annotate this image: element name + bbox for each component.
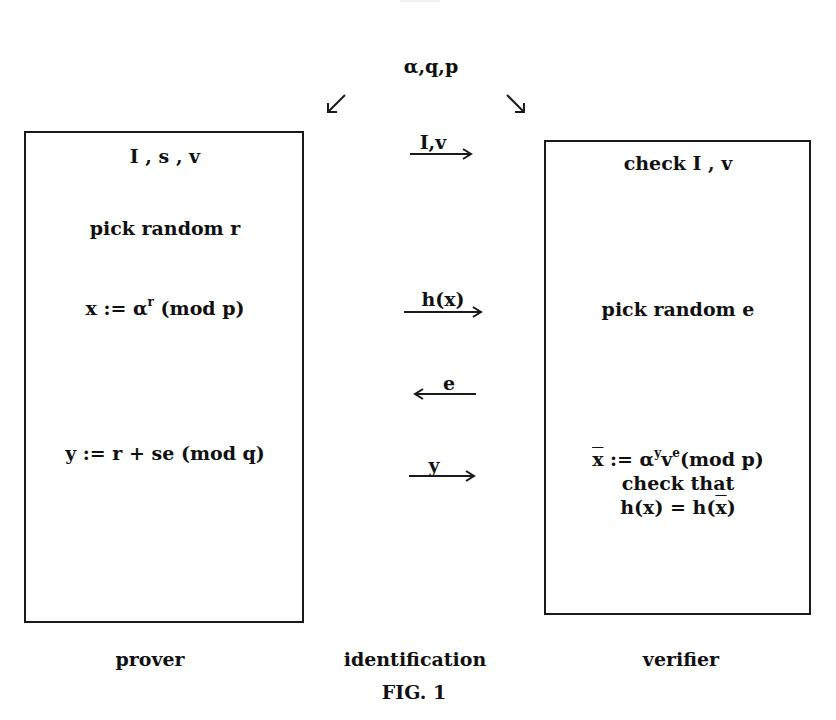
cropped-page-fragment bbox=[400, 0, 440, 2]
commitment-modulus: (mod p) bbox=[154, 297, 245, 319]
right-arrow-icon bbox=[404, 306, 484, 318]
arrow-to-verifier-icon bbox=[503, 93, 527, 115]
prover-box: I , s , v pick random r x := αr (mod p) … bbox=[24, 131, 304, 623]
prover-pick-random-r: pick random r bbox=[90, 219, 241, 238]
verifier-pick-random-e: pick random e bbox=[602, 300, 755, 319]
v-term: v bbox=[661, 448, 672, 470]
prover-label: prover bbox=[115, 650, 184, 669]
left-arrow-icon bbox=[412, 388, 478, 400]
hash-left: h(x) = h( bbox=[620, 496, 715, 518]
hash-close: ) bbox=[727, 496, 736, 518]
prover-secrets: I , s , v bbox=[130, 147, 200, 166]
x-bar: x bbox=[592, 448, 603, 470]
figure-caption: FIG. 1 bbox=[382, 683, 446, 702]
right-arrow-icon bbox=[409, 470, 477, 482]
identification-label: identification bbox=[344, 650, 487, 669]
public-parameters: α,q,p bbox=[404, 57, 458, 76]
verifier-box: check I , v pick random e x := αyve(mod … bbox=[544, 140, 811, 615]
recompute-base: := α bbox=[603, 448, 654, 470]
verifier-label: verifier bbox=[643, 650, 719, 669]
x-bar: x bbox=[715, 496, 726, 518]
verifier-hash-comparison: h(x) = h(x) bbox=[620, 498, 735, 517]
commitment-base: x := α bbox=[85, 297, 147, 319]
arrow-to-prover-icon bbox=[325, 93, 349, 115]
exponent-e: e bbox=[672, 446, 680, 460]
verifier-check-identity: check I , v bbox=[624, 154, 733, 173]
recompute-modulus: (mod p) bbox=[680, 448, 764, 470]
verifier-recompute: x := αyve(mod p) bbox=[592, 450, 764, 469]
right-arrow-icon bbox=[410, 148, 474, 160]
prover-commitment: x := αr (mod p) bbox=[85, 299, 244, 318]
verifier-check-that: check that bbox=[622, 474, 735, 493]
prover-response: y := r + se (mod q) bbox=[65, 444, 265, 463]
